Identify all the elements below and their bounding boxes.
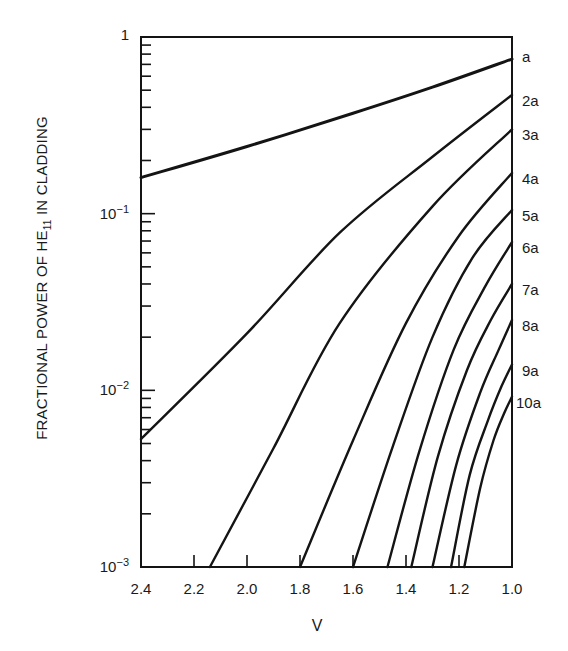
curve-2a xyxy=(141,95,512,439)
x-axis-ticks xyxy=(141,555,512,567)
series-label-a: a xyxy=(522,48,530,65)
series-label-3a: 3a xyxy=(522,126,539,143)
y-axis-ticks xyxy=(141,37,155,567)
x-tick-label: 1.6 xyxy=(343,580,364,597)
series-label-5a: 5a xyxy=(522,207,539,224)
series-label-2a: 2a xyxy=(522,92,539,109)
y-tick-label: 1 xyxy=(69,26,129,43)
chart-canvas xyxy=(0,0,568,651)
curve-4a xyxy=(300,173,512,567)
x-tick-label: 1.2 xyxy=(449,580,470,597)
y-axis-title: FRACTIONAL POWER OF HE11 IN CLADDING xyxy=(33,116,53,440)
series-label-7a: 7a xyxy=(522,281,539,298)
plot-border xyxy=(141,37,512,567)
y-tick-label: 10−2 xyxy=(69,379,129,398)
x-tick-label: 1.4 xyxy=(396,580,417,597)
x-tick-label: 1.0 xyxy=(502,580,523,597)
y-tick-label: 10−1 xyxy=(69,203,129,222)
x-tick-label: 1.8 xyxy=(290,580,311,597)
x-tick-label: 2.2 xyxy=(184,580,205,597)
series-label-6a: 6a xyxy=(522,239,539,256)
series-label-8a: 8a xyxy=(522,317,539,334)
curve-a xyxy=(141,59,512,178)
x-tick-label: 2.4 xyxy=(131,580,152,597)
y-tick-label: 10−3 xyxy=(69,556,129,575)
plot-frame xyxy=(141,37,512,567)
series-label-10a: 10a xyxy=(516,394,541,411)
curve-3a xyxy=(210,129,512,567)
x-axis-title: V xyxy=(312,617,323,635)
series-label-4a: 4a xyxy=(522,170,539,187)
x-tick-label: 2.0 xyxy=(237,580,258,597)
curve-9a xyxy=(451,365,512,567)
data-curves xyxy=(141,59,512,567)
series-label-9a: 9a xyxy=(522,362,539,379)
